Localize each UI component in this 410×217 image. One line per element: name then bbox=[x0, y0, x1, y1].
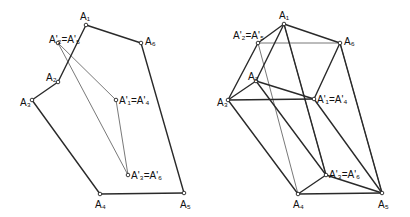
edge-A4-A3 bbox=[32, 100, 100, 194]
right-figure-triangulated-polygon: A₁A₆A₅A₄A₃A₂A'₂=A'₅A'₁=A'₄A'₃=A'₆ bbox=[217, 10, 389, 210]
vertex-A4 bbox=[296, 192, 300, 196]
vertex-A3p bbox=[324, 173, 328, 177]
vertex-A6 bbox=[139, 41, 143, 45]
vertex-label-A1p: A'₁=A'₄ bbox=[317, 94, 347, 105]
vertex-label-A1: A₁ bbox=[279, 10, 290, 21]
vertex-A6 bbox=[338, 41, 342, 45]
edge-A1-A6 bbox=[284, 24, 340, 43]
vertex-A1p bbox=[312, 97, 316, 101]
left-figure-polygon-and-triangle: A₁A₆A₅A₄A₃A₂A'₂=A'₅A'₁=A'₄A'₃=A'₆ bbox=[20, 11, 191, 210]
edge-A2-A1p bbox=[256, 81, 314, 99]
vertex-label-A5: A₅ bbox=[180, 199, 191, 210]
vertex-A5 bbox=[182, 191, 186, 195]
vertex-label-A3p: A'₃=A'₆ bbox=[329, 169, 360, 180]
vertex-label-A1p: A'₁=A'₄ bbox=[119, 95, 149, 106]
vertex-label-A4: A₄ bbox=[293, 199, 304, 210]
edge-A3-A1p bbox=[228, 99, 314, 100]
vertex-A2p bbox=[256, 41, 260, 45]
vertex-label-A3: A₃ bbox=[20, 97, 31, 108]
vertex-A5 bbox=[380, 191, 384, 195]
vertex-A2 bbox=[56, 80, 60, 84]
vertex-label-A2: A₂ bbox=[248, 71, 259, 82]
vertex-label-A1: A₁ bbox=[80, 11, 91, 22]
edge-A3p-A4 bbox=[298, 175, 326, 194]
edge-A2p-A1p bbox=[58, 43, 116, 100]
vertex-label-A2p: A'₂=A'₅ bbox=[49, 34, 80, 45]
edge-A3-A2 bbox=[228, 81, 256, 100]
edge-A4-A3 bbox=[228, 100, 298, 194]
vertex-A1p bbox=[114, 98, 118, 102]
vertex-label-A6: A₆ bbox=[344, 36, 355, 47]
vertex-label-A6: A₆ bbox=[145, 36, 156, 47]
edge-A1-A6 bbox=[86, 25, 141, 43]
vertex-A4 bbox=[98, 192, 102, 196]
edge-A5-A4 bbox=[298, 193, 382, 194]
diagram-canvas: A₁A₆A₅A₄A₃A₂A'₂=A'₅A'₁=A'₄A'₃=A'₆ A₁A₆A₅… bbox=[0, 0, 410, 217]
vertex-label-A3: A₃ bbox=[217, 97, 228, 108]
vertex-label-A5: A₅ bbox=[378, 199, 389, 210]
vertex-A1 bbox=[282, 22, 286, 26]
edge-A3-A2 bbox=[32, 82, 58, 100]
vertex-label-A2: A₂ bbox=[46, 72, 57, 83]
vertex-A3p bbox=[126, 173, 130, 177]
edge-A6-A1p bbox=[314, 43, 340, 99]
vertex-A1 bbox=[84, 23, 88, 27]
edge-A5-A4 bbox=[100, 193, 184, 194]
vertex-label-A4: A₄ bbox=[95, 199, 106, 210]
vertex-label-A2p: A'₂=A'₅ bbox=[233, 30, 264, 41]
vertex-label-A3p: A'₃=A'₆ bbox=[131, 170, 162, 181]
